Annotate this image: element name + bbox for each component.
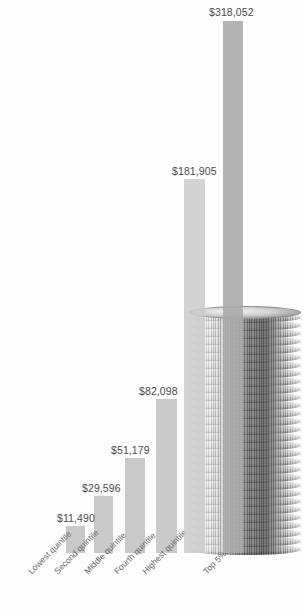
coin (189, 376, 301, 387)
bar-highest-quintile (184, 179, 205, 553)
coin (189, 448, 301, 459)
coin-stack-image (189, 306, 301, 558)
coin (189, 432, 301, 443)
x-axis-labels: Lowest quintile Second quintile Middle q… (0, 553, 303, 613)
coin (189, 528, 301, 539)
coin (189, 504, 301, 515)
coin (189, 464, 301, 475)
bar-fourth-quintile (156, 399, 177, 553)
coin (189, 400, 301, 411)
value-label-second-quintile: $29,596 (82, 482, 121, 494)
coin-top-face (189, 306, 301, 319)
value-label-highest-quintile: $181,905 (172, 165, 217, 177)
coin (189, 472, 301, 483)
coin (189, 384, 301, 395)
coin (189, 392, 301, 403)
coin (189, 344, 301, 355)
coin (189, 360, 301, 371)
coin (189, 496, 301, 507)
coin (189, 456, 301, 467)
coin (189, 424, 301, 435)
value-label-middle-quintile: $51,179 (111, 444, 150, 456)
value-label-top-5-percent: $318,052 (209, 6, 254, 18)
coin (189, 368, 301, 379)
coin (189, 520, 301, 531)
value-label-lowest-quintile: $11,490 (57, 512, 95, 524)
coin (189, 488, 301, 499)
bar-top-5-percent (223, 21, 243, 553)
bar-chart: $11,490 $29,596 $51,179 $82,098 $181,905… (0, 0, 303, 613)
coin (189, 328, 301, 339)
coin (189, 536, 301, 547)
coin (189, 352, 301, 363)
coin (189, 512, 301, 523)
coin (189, 336, 301, 347)
coin (189, 416, 301, 427)
coin (189, 320, 301, 331)
coin (189, 312, 301, 323)
value-label-fourth-quintile: $82,098 (139, 385, 178, 397)
coin (189, 440, 301, 451)
coin (189, 408, 301, 419)
coin (189, 480, 301, 491)
